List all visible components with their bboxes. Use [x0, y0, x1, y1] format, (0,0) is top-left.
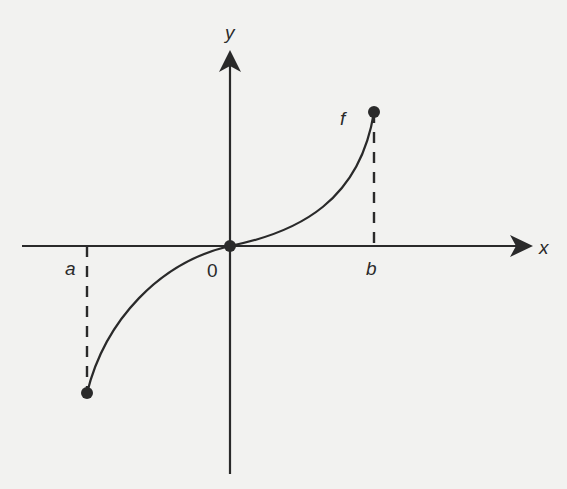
graph-svg: [0, 0, 567, 489]
endpoint-b-dot: [368, 106, 380, 118]
function-graph-diagram: y x 0 a b f: [0, 0, 567, 489]
endpoint-a-dot: [81, 387, 93, 399]
x-axis-label: x: [539, 238, 549, 257]
y-axis-label: y: [225, 23, 235, 42]
b-label: b: [366, 259, 377, 278]
a-label: a: [65, 259, 76, 278]
function-label: f: [340, 109, 345, 128]
origin-label: 0: [207, 261, 218, 280]
origin-dot: [224, 240, 236, 252]
